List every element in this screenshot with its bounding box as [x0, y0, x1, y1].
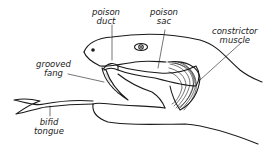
label-constrictor-muscle: constrictor muscle: [212, 27, 258, 45]
lower-jaw-outline: [93, 104, 258, 144]
label-poison-sac: poison sac: [150, 8, 178, 26]
constrictor-muscle: [168, 62, 200, 110]
leader-grooved-fang: [68, 74, 104, 82]
label-bifid-tongue: bifid tongue: [34, 118, 64, 136]
bifid-tongue: [14, 99, 93, 114]
chin-line: [93, 103, 165, 108]
snake-head-diagram: poison duct poison sac constrictor muscl…: [0, 0, 268, 150]
label-grooved-fang: grooved fang: [36, 60, 71, 78]
poison-duct: [104, 64, 118, 70]
label-poison-duct: poison duct: [92, 8, 120, 26]
nostril: [91, 48, 95, 52]
leader-constrictor-muscle: [200, 42, 242, 80]
grooved-fang: [102, 68, 128, 100]
upper-jaw-line: [84, 52, 166, 66]
eye-icon: [135, 44, 148, 51]
